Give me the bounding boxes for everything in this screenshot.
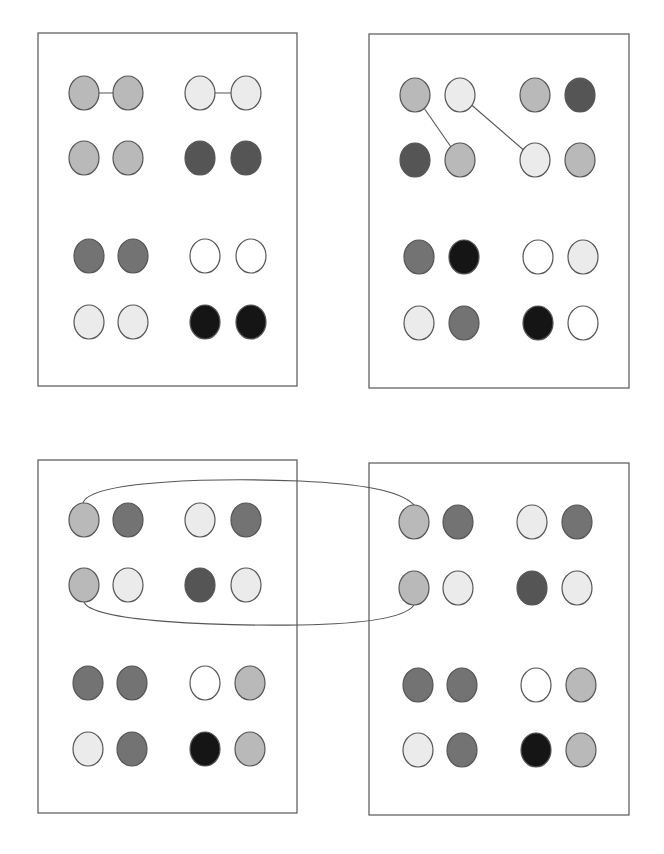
circle-medium <box>117 666 147 700</box>
circle-black <box>523 306 553 340</box>
circle-very-light <box>520 143 550 177</box>
circle-very-light <box>568 240 598 274</box>
circle-dark <box>517 571 547 605</box>
circle-light <box>235 732 265 766</box>
circle-very-light <box>443 571 473 605</box>
circle-white <box>236 239 266 273</box>
circle-light <box>566 668 596 702</box>
panel-top-right-circles <box>400 78 598 340</box>
circle-black <box>449 240 479 274</box>
dots-layer <box>69 76 598 767</box>
circle-dark <box>400 143 430 177</box>
circle-very-light <box>231 76 261 110</box>
circle-medium <box>231 503 261 537</box>
circle-medium <box>403 668 433 702</box>
circle-medium <box>117 732 147 766</box>
circle-light <box>566 733 596 767</box>
circle-dark <box>565 78 595 112</box>
circle-medium <box>447 733 477 767</box>
panel-bottom-left-circles <box>69 503 265 766</box>
diagram-canvas <box>0 0 664 854</box>
circle-very-light <box>403 733 433 767</box>
circle-light <box>235 666 265 700</box>
circle-very-light <box>73 732 103 766</box>
circle-light <box>69 503 99 537</box>
circle-light <box>69 568 99 602</box>
circle-white <box>568 306 598 340</box>
circle-light <box>113 76 143 110</box>
circle-medium <box>449 306 479 340</box>
circle-dark <box>185 141 215 175</box>
circle-black <box>236 305 266 339</box>
circle-medium <box>113 503 143 537</box>
circle-medium <box>447 668 477 702</box>
circle-dark <box>185 568 215 602</box>
circle-light <box>399 505 429 539</box>
circle-white <box>521 668 551 702</box>
circle-light <box>520 78 550 112</box>
circle-very-light <box>517 505 547 539</box>
circle-light <box>113 141 143 175</box>
circle-white <box>523 240 553 274</box>
circle-light <box>69 141 99 175</box>
circle-dark <box>231 141 261 175</box>
circle-medium <box>562 505 592 539</box>
panel-bottom-right-circles <box>399 505 596 767</box>
circle-very-light <box>231 568 261 602</box>
circle-white <box>190 239 220 273</box>
circle-black <box>521 733 551 767</box>
circle-very-light <box>113 568 143 602</box>
circle-black <box>190 732 220 766</box>
panel-top-left-circles <box>69 76 266 339</box>
circle-very-light <box>445 78 475 112</box>
circle-very-light <box>74 305 104 339</box>
circle-light <box>400 78 430 112</box>
circle-medium <box>74 239 104 273</box>
circle-medium <box>73 666 103 700</box>
circle-very-light <box>562 571 592 605</box>
loop-connector-bottom <box>84 602 414 625</box>
circle-black <box>190 305 220 339</box>
circle-medium <box>443 505 473 539</box>
circle-very-light <box>185 76 215 110</box>
loop-connector-top <box>83 480 414 505</box>
circle-medium <box>118 239 148 273</box>
circle-light <box>399 571 429 605</box>
circle-white <box>190 666 220 700</box>
circle-light <box>445 143 475 177</box>
circle-very-light <box>185 503 215 537</box>
circle-very-light <box>404 306 434 340</box>
circle-medium <box>404 240 434 274</box>
circle-light <box>565 143 595 177</box>
circle-light <box>69 76 99 110</box>
circle-very-light <box>118 305 148 339</box>
